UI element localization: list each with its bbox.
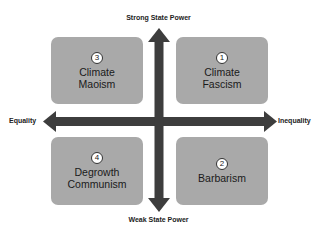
axis-label-right: Inequality [278, 117, 311, 124]
axis-label-left: Equality [9, 117, 36, 124]
quadrant-number-badge: 4 [91, 152, 103, 164]
axes-arrows [0, 0, 317, 236]
quadrant-bottom-left: 4 Degrowth Communism [51, 137, 143, 205]
quadrant-number-badge: 3 [91, 52, 103, 64]
quadrant-label: Barbarism [198, 172, 246, 184]
quadrant-label: Climate Maoism [79, 66, 116, 90]
quadrant-top-left: 3 Climate Maoism [51, 37, 143, 104]
quadrant-top-right: 1 Climate Fascism [176, 37, 268, 104]
quadrant-bottom-right: 2 Barbarism [176, 137, 268, 205]
axis-label-top: Strong State Power [0, 14, 317, 21]
quadrant-label: Degrowth Communism [68, 166, 127, 190]
quadrant-label: Climate Fascism [202, 66, 241, 90]
quadrant-number-badge: 1 [216, 52, 228, 64]
quadrant-number-badge: 2 [216, 158, 228, 170]
axis-label-bottom: Weak State Power [0, 216, 317, 223]
